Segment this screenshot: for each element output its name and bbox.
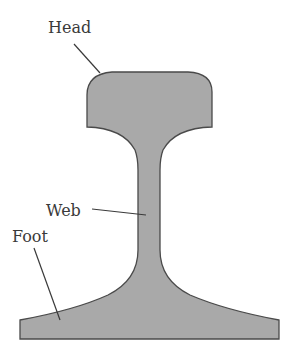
rail-cross-section-diagram bbox=[0, 0, 296, 360]
foot-leader-line bbox=[34, 248, 60, 320]
head-label: Head bbox=[48, 20, 91, 36]
web-label: Web bbox=[46, 203, 81, 219]
foot-label: Foot bbox=[12, 229, 48, 245]
head-leader-line bbox=[74, 44, 100, 73]
